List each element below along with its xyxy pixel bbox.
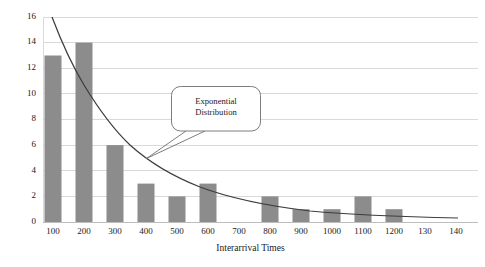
y-tick-10: 10 (10, 88, 36, 98)
x-axis-title: Interarrival Times (0, 243, 485, 253)
bar-300 (107, 145, 124, 222)
y-tick-6: 6 (10, 139, 36, 149)
y-tick-4: 4 (10, 165, 36, 175)
histogram-chart: Frequency 16 14 12 10 8 6 4 2 0 100 200 … (0, 0, 485, 267)
y-tick-2: 2 (10, 190, 36, 200)
bar-400 (138, 184, 155, 222)
y-tick-14: 14 (10, 36, 36, 46)
bar-200 (76, 43, 93, 222)
callout-line-2: Distribution (172, 107, 261, 118)
bar-100 (45, 56, 62, 223)
y-tick-0: 0 (10, 216, 36, 226)
y-tick-12: 12 (10, 62, 36, 72)
callout-line-1: Exponential (172, 96, 261, 107)
y-tick-16: 16 (10, 11, 36, 21)
bar-1100 (355, 196, 372, 222)
x-tick-140: 140 (436, 226, 476, 236)
bar-500 (169, 196, 186, 222)
bar-1000 (324, 209, 341, 222)
bar-800 (262, 196, 279, 222)
y-tick-8: 8 (10, 113, 36, 123)
